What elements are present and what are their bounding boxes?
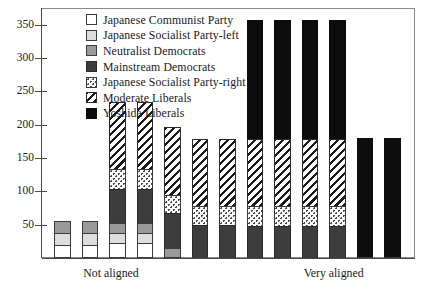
legend-item-label: Japanese Socialist Party-left [103,29,239,41]
bar-stack [54,221,71,258]
bar-segment [329,226,346,258]
y-axis-tick-mark [35,191,41,192]
y-axis-tick-mark [35,125,41,126]
legend-item: Japanese Socialist Party-left [86,28,246,44]
bar-segment [384,138,401,258]
bar-segment [109,233,126,244]
legend-item-label: Japanese Socialist Party-right [103,76,246,88]
bar-segment [137,189,154,224]
legend-item: Mainstream Democrats [86,59,246,75]
bar-segment [164,195,181,213]
bar-stack [82,221,99,258]
bar-segment [54,245,71,258]
legend-swatch-icon [86,14,97,25]
legend-item: Moderate Liberals [86,90,246,106]
legend-swatch-icon [86,92,97,103]
bar-segment [137,233,154,244]
bar-stack [219,139,236,258]
y-axis-tick-mark [35,58,41,59]
bar-segment [109,169,126,189]
bar-segment [247,20,264,139]
y-axis-tick-mark-inner [42,125,47,126]
bar-segment [164,213,181,248]
bar-segment [192,225,209,258]
y-axis-tick-label: 150 [4,152,34,163]
bar-stack [109,102,126,258]
bar-segment [82,245,99,258]
bar-stack [357,138,374,258]
y-axis-tick-label: 100 [4,185,34,196]
bar-segment [357,138,374,258]
bar-stack [274,20,291,258]
bar-segment [247,139,264,206]
y-axis-tick-mark-inner [42,225,47,226]
legend-swatch-icon [86,77,97,88]
bar-segment [137,169,154,189]
bar-segment [109,189,126,224]
bar-stack [137,102,154,258]
legend-item: Yoshida Liberals [86,106,246,122]
y-axis-tick-mark-inner [42,25,47,26]
bar-segment [192,139,209,206]
bar-stack [329,20,346,258]
y-axis-tick-mark-inner [42,58,47,59]
bar-segment [219,225,236,258]
bar-segment [274,20,291,139]
y-axis-tick-mark [35,25,41,26]
x-axis-line [42,258,415,259]
bar-segment [302,206,319,226]
bar-segment [302,139,319,206]
bar-segment [54,221,71,232]
y-axis-tick-mark [35,158,41,159]
x-axis-annotation-label: Not aligned [83,266,138,281]
bar-segment [247,226,264,258]
legend-swatch-icon [86,61,97,72]
bar-stack [247,20,264,258]
bar-segment [329,20,346,139]
bar-stack [164,127,181,258]
legend-item-label: Neutralist Democrats [103,45,206,57]
y-axis-tick-mark-inner [42,91,47,92]
bar-segment [109,243,126,258]
y-axis-tick-mark [35,225,41,226]
y-axis-tick-mark-inner [42,191,47,192]
legend-swatch-icon [86,45,97,56]
bar-segment [302,226,319,258]
bar-segment [219,206,236,225]
bar-segment [82,233,99,245]
y-axis-tick-label: 50 [4,219,34,230]
y-axis-tick-mark [35,91,41,92]
legend-swatch-icon [86,30,97,41]
bar-segment [329,139,346,206]
bar-segment [82,221,99,232]
bar-segment [109,223,126,232]
bar-segment [164,127,181,195]
bar-segment [54,233,71,245]
y-axis-tick-labels: 50100150200250300350 [0,0,34,289]
y-axis-tick-label: 350 [4,19,34,30]
legend-swatch-icon [86,108,97,119]
legend-item-label: Moderate Liberals [103,92,192,104]
x-axis-annotation-label: Very aligned [304,266,364,281]
y-axis-tick-label: 250 [4,85,34,96]
bar-segment [137,223,154,232]
bar-segment [219,139,236,206]
bar-segment [274,206,291,226]
bar-stack [192,139,209,258]
bar-segment [192,206,209,225]
y-axis-tick-mark-inner [42,158,47,159]
y-axis-tick-label: 300 [4,52,34,63]
bar-stack [384,138,401,258]
legend-item-label: Japanese Communist Party [103,14,233,26]
bar-segment [247,206,264,226]
legend-item-label: Yoshida Liberals [103,107,184,119]
bar-segment [164,248,181,258]
bar-segment [274,139,291,206]
bar-stack [302,20,319,258]
chart-figure: 50100150200250300350 Japanese Communist … [0,0,424,289]
bar-segment [137,243,154,258]
legend-item: Japanese Socialist Party-right [86,74,246,90]
bar-segment [302,20,319,139]
bar-segment [329,206,346,226]
legend-item: Japanese Communist Party [86,12,246,28]
